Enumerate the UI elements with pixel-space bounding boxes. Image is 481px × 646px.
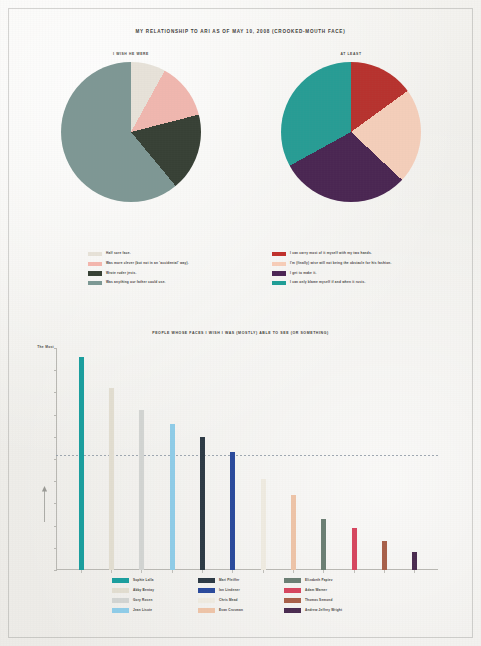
pie-left-legend-swatch-icon — [88, 262, 102, 266]
bar-legend-column: Sophie LallaAbby BentayGory RosenJean Li… — [112, 578, 198, 618]
pie-right-legend-item: I get to make it. — [272, 271, 452, 275]
bar-legend-swatch-icon — [284, 608, 301, 613]
pie-left-legend-item: Half sore face. — [88, 252, 253, 256]
bar-legend-swatch-icon — [198, 598, 215, 603]
pie-chart-left: I WISH HE WERE — [38, 52, 224, 202]
x-axis-tick — [323, 570, 324, 573]
x-axis-tick — [81, 570, 82, 573]
poster-sheet: MY RELATIONSHIP TO ARI AS OF MAY 10, 200… — [0, 0, 481, 646]
bar-legend-label: Chris Mead — [219, 598, 238, 602]
bar — [412, 552, 417, 570]
x-axis-tick — [293, 570, 294, 573]
bar-legend-label: Elizabeth Papiev — [305, 578, 333, 582]
bar-legend-label: Sophie Lalla — [133, 578, 154, 582]
x-axis-tick — [141, 570, 142, 573]
bar-legend-swatch-icon — [284, 598, 301, 603]
bar-legend-swatch-icon — [198, 588, 215, 593]
bar — [261, 479, 266, 570]
pie-left-legend-item: Was anything our father could use. — [88, 281, 253, 285]
x-axis-tick — [202, 570, 203, 573]
bar-legend-column: Elizabeth PapievAdam WarnerThomas Semond… — [284, 578, 370, 618]
pie-right-title: AT LEAST — [258, 52, 444, 56]
x-axis-tick — [263, 570, 264, 573]
bar-legend-item: Jean Lisote — [112, 608, 198, 613]
bar-legend-swatch-icon — [198, 578, 215, 583]
pie-left-title: I WISH HE WERE — [38, 52, 224, 56]
bar-legend-swatch-icon — [112, 608, 129, 613]
y-axis-tick — [54, 526, 57, 527]
pie-left-legend-swatch-icon — [88, 281, 102, 285]
pie-left-legend-label: Half sore face. — [106, 252, 131, 255]
x-axis-tick — [384, 570, 385, 573]
pie-right-legend-label: I can carry most of it myself with my tw… — [290, 252, 372, 255]
pie-right-legend-item: I'm (finally) wise will not being the ob… — [272, 262, 452, 266]
pie-right-legend-label: I'm (finally) wise will not being the ob… — [290, 262, 392, 265]
bar-chart-title: PEOPLE WHOSE FACES I WISH I WAS (MOSTLY)… — [0, 331, 481, 335]
bar — [382, 541, 387, 570]
bar-legend-item: Evan Crosman — [198, 608, 284, 613]
y-axis-arrow-icon — [40, 486, 49, 522]
pie-left-legend-label: Wrote ruder jests. — [106, 272, 137, 275]
bar-legend-item: Thomas Semond — [284, 598, 370, 603]
bar — [109, 388, 114, 570]
pie-right-legend-swatch-icon — [272, 262, 286, 266]
pie-left-legend-label: Was anything our father could use. — [106, 281, 166, 284]
bar-legend-item: Adam Warner — [284, 588, 370, 593]
bar-legend-column: Mari PfeifferIan LindenerChris MeadEvan … — [198, 578, 284, 618]
y-axis-tick — [54, 348, 57, 349]
x-axis-tick — [354, 570, 355, 573]
pie-right-legend: I can carry most of it myself with my tw… — [272, 252, 452, 290]
pie-right-legend-label: I get to make it. — [290, 272, 317, 275]
pie-right-legend-swatch-icon — [272, 281, 286, 285]
bar-legend-item: Gory Rosen — [112, 598, 198, 603]
bar — [352, 528, 357, 570]
x-axis-tick — [111, 570, 112, 573]
bar-legend-swatch-icon — [112, 578, 129, 583]
pie-left-legend-swatch-icon — [88, 271, 102, 275]
y-axis-top-label: The Most — [37, 345, 54, 349]
y-axis-tick — [54, 503, 57, 504]
y-axis-tick — [54, 437, 57, 438]
bar-legend-label: Ian Lindener — [219, 588, 240, 592]
y-axis-tick — [54, 370, 57, 371]
pie-right-legend-item: I can only blame myself if and when it r… — [272, 281, 452, 285]
bar-legend-item: Abby Bentay — [112, 588, 198, 593]
pie-left-legend: Half sore face.Was more clever (but not … — [88, 252, 253, 290]
bar-legend-item: Ian Lindener — [198, 588, 284, 593]
bar-legend-label: Adam Warner — [305, 588, 327, 592]
pie-chart-right: AT LEAST — [258, 52, 444, 202]
bar — [79, 357, 84, 570]
bar-legend-label: Evan Crosman — [219, 608, 243, 612]
y-axis-tick — [54, 459, 57, 460]
bar — [321, 519, 326, 570]
bar — [291, 495, 296, 571]
bar-legend-label: Mari Pfeiffer — [219, 578, 239, 582]
y-axis-tick — [54, 481, 57, 482]
y-axis-tick — [54, 392, 57, 393]
pie-left-graphic — [61, 62, 201, 202]
pie-left-legend-item: Was more clever (but not in an 'accident… — [88, 262, 253, 266]
bar-series — [56, 348, 438, 570]
pie-right-graphic — [281, 62, 421, 202]
pie-right-legend-item: I can carry most of it myself with my tw… — [272, 252, 452, 256]
bar-legend-item: Andrew Jeffrey Wright — [284, 608, 370, 613]
y-axis-tick — [54, 548, 57, 549]
bar-legend-label: Thomas Semond — [305, 598, 333, 602]
bar — [170, 424, 175, 571]
bar — [230, 452, 235, 570]
bar-legend-label: Abby Bentay — [133, 588, 154, 592]
bar-legend-swatch-icon — [284, 588, 301, 593]
x-axis-tick — [172, 570, 173, 573]
bar — [139, 410, 144, 570]
bar-chart-legend: Sophie LallaAbby BentayGory RosenJean Li… — [112, 578, 372, 618]
y-axis-tick — [54, 570, 57, 571]
bar — [200, 437, 205, 570]
bar-chart: The Most — [56, 348, 438, 570]
bar-legend-label: Jean Lisote — [133, 608, 152, 612]
bar-legend-swatch-icon — [284, 578, 301, 583]
bar-legend-label: Andrew Jeffrey Wright — [305, 608, 342, 612]
bar-legend-swatch-icon — [198, 608, 215, 613]
page-title: MY RELATIONSHIP TO ARI AS OF MAY 10, 200… — [0, 29, 481, 34]
bar-legend-swatch-icon — [112, 588, 129, 593]
pie-left-legend-item: Wrote ruder jests. — [88, 271, 253, 275]
